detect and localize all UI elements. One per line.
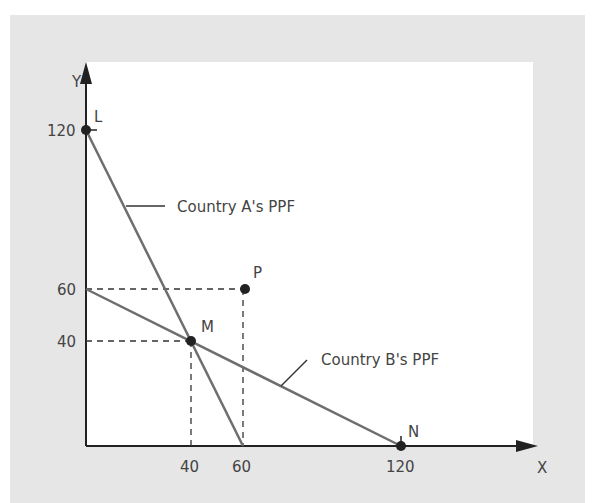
x-axis-arrow-icon [516, 440, 538, 452]
guide-lines [86, 289, 243, 446]
label-m: M [201, 318, 214, 336]
country-a-ppf [86, 130, 243, 446]
point-l [81, 125, 91, 135]
x-tick-120: 120 [386, 458, 415, 476]
point-m [186, 336, 196, 346]
y-tick-40: 40 [57, 333, 76, 351]
point-n [396, 441, 406, 451]
y-axis-label: Y [71, 73, 82, 91]
label-n: N [408, 423, 419, 441]
x-axis-label: X [537, 459, 547, 477]
label-p: P [253, 264, 262, 282]
x-tick-40: 40 [180, 458, 199, 476]
y-axis-arrow-icon [80, 62, 92, 84]
ppf-chart: Y X 120 60 40 40 60 120 L M P N Country … [0, 0, 595, 503]
y-tick-120: 120 [47, 122, 76, 140]
series-b-label: Country B's PPF [321, 351, 439, 369]
y-tick-60: 60 [57, 281, 76, 299]
point-p [240, 284, 250, 294]
x-tick-60: 60 [232, 458, 251, 476]
series-a-label: Country A's PPF [177, 198, 295, 216]
label-l: L [94, 108, 103, 126]
